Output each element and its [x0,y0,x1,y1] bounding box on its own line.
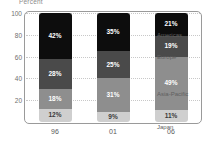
stacked-bar-chart: Percent 20406080100 12%18%28%42%9%31%25%… [0,0,213,147]
bar-segment-americas[interactable]: 42% [39,13,72,59]
legend-label-asia-pacific: Asia-Pacific [157,91,188,97]
x-axis-tick-label: 01 [97,128,130,135]
legend-label-americas: Americas [157,32,182,38]
segment-value-label: 42% [48,33,61,40]
bar-segment-asia-pacific[interactable]: 18% [39,89,72,109]
y-axis-tick-label: 60 [0,53,22,60]
chart-legend: AmericasEuropeAsia-PacificJapan [157,11,213,124]
x-axis-tick-label: 96 [39,128,72,135]
segment-value-label: 35% [106,29,119,36]
segment-value-label: 9% [108,114,117,121]
y-axis-tick-label: 100 [0,10,22,17]
segment-value-label: 31% [106,92,119,99]
y-axis-tick-label: 40 [0,75,22,82]
segment-value-label: 18% [48,96,61,103]
bar-segment-europe[interactable]: 25% [97,51,130,78]
bar-segment-asia-pacific[interactable]: 31% [97,78,130,112]
segment-value-label: 25% [106,62,119,69]
y-axis: 20406080100 [0,13,22,122]
legend-label-japan: Japan [157,124,173,130]
x-axis: 960106 [26,128,200,142]
y-axis-tick-label: 20 [0,97,22,104]
segment-value-label: 28% [48,71,61,78]
bar-01[interactable]: 9%31%25%35% [97,13,130,122]
segment-value-label: 12% [48,112,61,119]
bar-segment-europe[interactable]: 28% [39,59,72,90]
bar-segment-americas[interactable]: 35% [97,13,130,51]
y-axis-tick-label: 80 [0,31,22,38]
bar-96[interactable]: 12%18%28%42% [39,13,72,122]
bar-segment-japan[interactable]: 12% [39,109,72,122]
chart-title: Percent [19,0,43,5]
legend-label-europe: Europe [157,54,176,60]
bar-segment-japan[interactable]: 9% [97,112,130,122]
